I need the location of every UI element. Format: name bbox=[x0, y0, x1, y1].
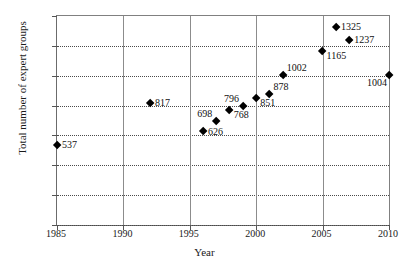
data-point-label: 1325 bbox=[341, 22, 361, 32]
data-point-label: 796 bbox=[224, 94, 239, 104]
data-point-label: 1237 bbox=[354, 35, 374, 45]
data-point-label: 851 bbox=[260, 98, 275, 108]
plot-area: 5378176266987687968518781002116513251237… bbox=[56, 15, 390, 226]
y-axis-tick bbox=[52, 46, 57, 47]
y-axis-tick bbox=[52, 106, 57, 107]
x-axis-tick-label: 2010 bbox=[366, 228, 409, 239]
diamond-marker-icon bbox=[212, 116, 221, 125]
y-gridline bbox=[57, 106, 389, 107]
y-axis-tick bbox=[52, 195, 57, 196]
x-axis-tick-label: 2005 bbox=[300, 228, 344, 239]
y-gridline bbox=[57, 76, 389, 77]
data-point-label: 698 bbox=[197, 109, 212, 119]
x-axis-tick-label: 1990 bbox=[100, 228, 144, 239]
x-gridline bbox=[123, 16, 124, 225]
y-axis-tick bbox=[52, 135, 57, 136]
y-gridline bbox=[57, 195, 389, 196]
data-point-label: 768 bbox=[234, 110, 249, 120]
x-axis-tick-label: 1995 bbox=[167, 228, 211, 239]
chart-figure: 5378176266987687968518781002116513251237… bbox=[0, 0, 409, 267]
y-gridline bbox=[57, 165, 389, 166]
x-gridline bbox=[256, 16, 257, 225]
y-axis-tick bbox=[52, 16, 57, 17]
y-gridline bbox=[57, 46, 389, 47]
y-axis-tick bbox=[52, 165, 57, 166]
x-axis-title: Year bbox=[0, 246, 409, 258]
data-point-label: 817 bbox=[155, 98, 170, 108]
diamond-marker-icon bbox=[52, 140, 61, 149]
data-point-label: 537 bbox=[62, 140, 77, 150]
data-point-label: 1165 bbox=[327, 51, 347, 61]
x-axis-tick-label: 1985 bbox=[34, 228, 78, 239]
x-axis-tick-label: 2000 bbox=[233, 228, 277, 239]
diamond-marker-icon bbox=[331, 23, 340, 32]
y-axis-title: Total number of expert groups bbox=[16, 0, 28, 178]
y-gridline bbox=[57, 225, 389, 226]
data-point-label: 1004 bbox=[367, 78, 387, 88]
diamond-marker-icon bbox=[345, 36, 354, 45]
y-axis-tick bbox=[52, 76, 57, 77]
x-gridline bbox=[190, 16, 191, 225]
data-point-label: 1002 bbox=[287, 63, 307, 73]
data-point-label: 626 bbox=[208, 127, 223, 137]
data-point-label: 878 bbox=[273, 82, 288, 92]
